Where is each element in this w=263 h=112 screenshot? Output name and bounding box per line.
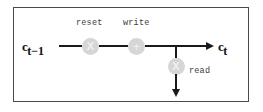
plus-glyph: + [133, 40, 141, 53]
reset-node: X [82, 38, 99, 55]
memory-cell-diagram: ct−1 reset X write + ct X read [0, 0, 263, 112]
previous-state-subscript: t−1 [27, 44, 44, 58]
write-label: write [123, 18, 150, 28]
next-state-label: ct [218, 38, 227, 57]
read-label: read [189, 66, 210, 76]
wire-input-to-reset [59, 45, 82, 47]
write-node: + [128, 38, 145, 55]
wire-junction-to-read [175, 45, 177, 58]
wire-read-output [175, 74, 177, 90]
read-node: X [168, 58, 185, 75]
multiply-glyph: X [172, 61, 179, 72]
reset-label: reset [76, 18, 103, 28]
multiply-glyph: X [87, 41, 94, 52]
wire-reset-to-write [99, 45, 128, 47]
previous-state-label: ct−1 [22, 38, 44, 57]
output-arrowhead [206, 42, 214, 50]
next-state-subscript: t [223, 44, 227, 58]
read-output-arrowhead [172, 89, 180, 97]
